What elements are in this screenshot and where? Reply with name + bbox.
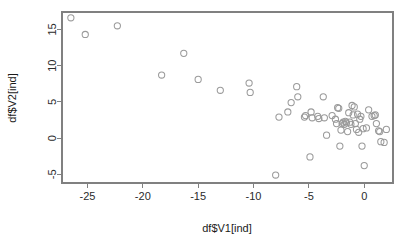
plot-canvas: -25-20-15-10-50 -5051015 df$V1[ind] df$V…	[0, 0, 409, 243]
y-tick-label: 5	[46, 99, 58, 105]
y-axis-title: df$V2[ind]	[6, 73, 18, 123]
y-tick-label: 0	[46, 135, 58, 141]
x-tick-label: -10	[246, 190, 262, 202]
y-tick-label: -5	[46, 169, 58, 179]
x-tick-label: -20	[135, 190, 151, 202]
x-tick-label: -25	[80, 190, 96, 202]
x-axis-title: df$V1[ind]	[202, 222, 252, 234]
figure-background	[0, 0, 409, 243]
y-tick-label: 10	[46, 59, 58, 71]
x-tick-label: -5	[304, 190, 314, 202]
scatter-plot-figure: -25-20-15-10-50 -5051015 df$V1[ind] df$V…	[0, 0, 409, 243]
x-tick-label: -15	[190, 190, 206, 202]
x-tick-label: 0	[361, 190, 367, 202]
y-tick-label: 15	[46, 23, 58, 35]
